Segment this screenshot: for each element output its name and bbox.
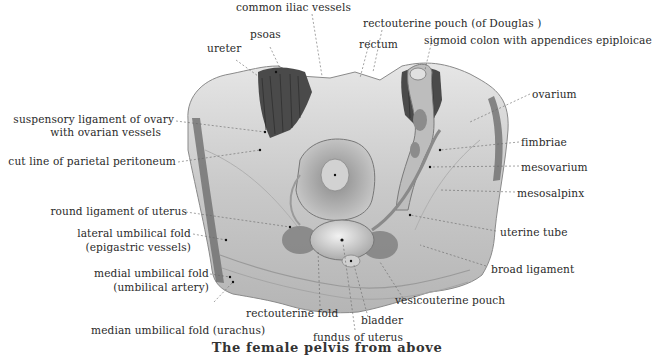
label-suspensory-ligament-line2: with ovarian vessels bbox=[50, 126, 161, 138]
label-fimbriae: fimbriae bbox=[521, 136, 567, 148]
label-lateral-umbilical-fold: lateral umbilical fold bbox=[77, 227, 191, 239]
label-lateral-umbilical-fold-line2: (epigastric vessels) bbox=[86, 241, 191, 253]
label-rectum: rectum bbox=[359, 38, 398, 50]
label-median-umbilical-fold: median umbilical fold (urachus) bbox=[91, 324, 265, 336]
label-mesosalpinx: mesosalpinx bbox=[517, 187, 584, 199]
label-round-ligament: round ligament of uterus bbox=[50, 205, 187, 217]
label-rectouterine-pouch: rectouterine pouch (of Douglas ) bbox=[363, 17, 541, 29]
label-psoas: psoas bbox=[250, 28, 281, 40]
uterus-shape bbox=[310, 220, 374, 260]
label-common-iliac-vessels: common iliac vessels bbox=[236, 1, 351, 13]
label-uterine-tube: uterine tube bbox=[500, 226, 568, 238]
label-cut-line-parietal-peritoneum: cut line of parietal peritoneum bbox=[8, 155, 176, 167]
figure-caption: The female pelvis from above bbox=[0, 340, 654, 355]
label-medial-umbilical-fold: medial umbilical fold bbox=[94, 267, 209, 279]
label-bladder: bladder bbox=[361, 314, 403, 326]
label-rectouterine-fold: rectouterine fold bbox=[246, 307, 338, 319]
label-sigmoid-colon: sigmoid colon with appendices epiploicae bbox=[424, 34, 652, 46]
label-ovarium: ovarium bbox=[532, 88, 577, 100]
label-vesicouterine-pouch: vesicouterine pouch bbox=[395, 294, 505, 306]
label-broad-ligament: broad ligament bbox=[491, 263, 574, 275]
label-medial-umbilical-fold-line2: (umbilical artery) bbox=[113, 281, 209, 293]
label-ureter: ureter bbox=[207, 42, 241, 54]
rectouterine-pouch-shape bbox=[296, 139, 375, 220]
label-suspensory-ligament: suspensory ligament of ovary bbox=[13, 113, 174, 125]
label-mesovarium: mesovarium bbox=[521, 161, 588, 173]
